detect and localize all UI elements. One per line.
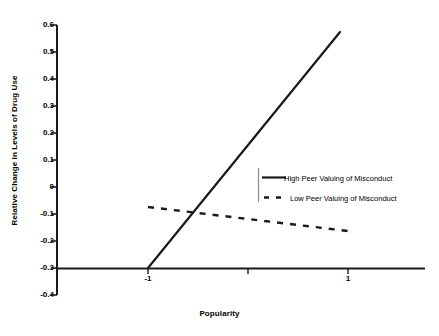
chart-figure: Relative Change in Levels of Drug Use 0.… — [0, 0, 439, 336]
plot-canvas — [0, 0, 439, 336]
legend — [259, 168, 287, 202]
series-line-high-peer-valuing — [148, 32, 340, 268]
series-line-low-peer-valuing — [148, 207, 348, 231]
